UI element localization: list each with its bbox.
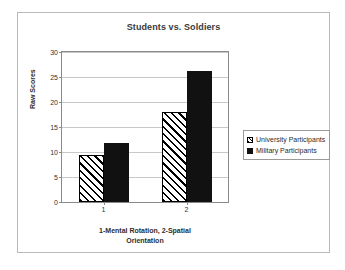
- y-axis-tick-label: 5: [54, 174, 58, 181]
- y-axis-tick-label: 20: [50, 99, 58, 106]
- y-axis-tick-label: 30: [50, 49, 58, 56]
- y-axis-tick-label: 0: [54, 199, 58, 206]
- page-title: Students vs. Soldiers: [18, 22, 329, 32]
- x-axis-title: 1-Mental Rotation, 2-Spatial Orientation: [61, 226, 229, 246]
- x-axis-tick-label: 1: [102, 206, 106, 213]
- x-axis-title-line-1: 1-Mental Rotation, 2-Spatial: [61, 226, 229, 236]
- x-axis-tick-mark: [104, 202, 105, 205]
- plot-area: 051015202530 12: [61, 51, 229, 203]
- bar[interactable]: [187, 71, 212, 203]
- y-axis-tick-mark: [59, 202, 62, 203]
- bar-group: [145, 52, 228, 202]
- x-axis-tick-mark: [187, 202, 188, 205]
- x-axis-tick-label: 2: [185, 206, 189, 213]
- bar[interactable]: [79, 155, 104, 203]
- chart-frame: Students vs. Soldiers Raw Scores 0510152…: [17, 12, 330, 253]
- y-axis-tick-label: 25: [50, 74, 58, 81]
- y-axis-tick-label: 15: [50, 124, 58, 131]
- legend-label-university: University Participants: [256, 136, 325, 143]
- bar[interactable]: [104, 143, 129, 202]
- bar-group: [62, 52, 145, 202]
- x-axis-title-line-2: Orientation: [61, 236, 229, 246]
- legend-item-military[interactable]: Military Participants: [247, 145, 325, 156]
- y-axis-title: Raw Scores: [29, 69, 36, 109]
- bar[interactable]: [162, 112, 187, 202]
- y-axis-tick-label: 10: [50, 149, 58, 156]
- filled-square-icon: [247, 148, 253, 154]
- legend: University Participants Military Partici…: [243, 130, 330, 160]
- hatched-square-icon: [247, 137, 253, 143]
- legend-label-military: Military Participants: [256, 147, 317, 154]
- legend-item-university[interactable]: University Participants: [247, 134, 325, 145]
